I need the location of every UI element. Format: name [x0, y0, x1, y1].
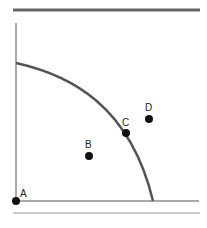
point-b-label: B	[85, 139, 92, 150]
frontier-curve	[16, 63, 153, 201]
point-a: A	[12, 188, 27, 205]
point-d: D	[145, 102, 153, 123]
point-b: B	[85, 139, 93, 160]
point-a-label: A	[20, 188, 27, 199]
ppf-diagram: A B C D	[0, 0, 207, 228]
point-d-label: D	[145, 102, 152, 113]
point-c: C	[122, 117, 130, 137]
point-c-label: C	[122, 117, 129, 128]
